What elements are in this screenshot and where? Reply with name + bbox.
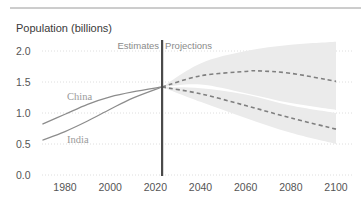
x-tick-label: 2060 [234, 181, 258, 193]
y-tick-label: 1.5 [16, 76, 31, 88]
x-tick-label: 2040 [189, 181, 213, 193]
chart-canvas: Population (billions) 0.00.51.01.52.0 19… [0, 0, 361, 203]
x-tick-label: 2020 [144, 181, 168, 193]
projection-bands [162, 42, 336, 144]
x-axis-ticks: 1980200020202040206020802100 [53, 181, 348, 193]
y-axis-ticks: 0.00.51.01.52.0 [16, 45, 31, 181]
y-tick-label: 1.0 [16, 107, 31, 119]
y-tick-label: 0.5 [16, 138, 31, 150]
estimates-label: Estimates [117, 40, 159, 51]
projections-label: Projections [165, 40, 212, 51]
x-tick-label: 2100 [324, 181, 348, 193]
estimate-line-china [42, 87, 162, 124]
x-tick-label: 1980 [53, 181, 77, 193]
chart-title: Population (billions) [16, 22, 112, 34]
population-chart: Population (billions) 0.00.51.01.52.0 19… [0, 0, 361, 203]
x-tick-label: 2080 [279, 181, 303, 193]
india-label: India [67, 134, 89, 145]
y-tick-label: 0.0 [16, 169, 31, 181]
y-tick-label: 2.0 [16, 45, 31, 57]
estimate-line-india [42, 87, 162, 140]
x-tick-label: 2000 [98, 181, 122, 193]
china-label: China [67, 91, 92, 102]
